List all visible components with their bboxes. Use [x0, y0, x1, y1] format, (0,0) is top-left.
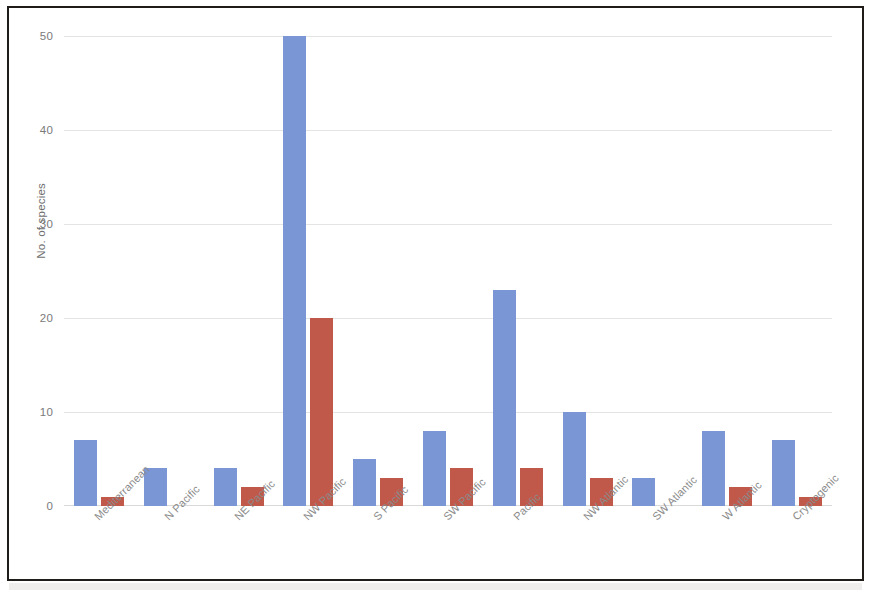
bar	[772, 440, 795, 506]
bar-group	[214, 36, 264, 506]
y-axis-tick-label: 50	[40, 30, 53, 42]
y-axis-tick-label: 20	[40, 312, 53, 324]
bar-group	[563, 36, 613, 506]
bar	[74, 440, 97, 506]
chart-figure-frame: No. of species 01020304050 Mediterranean…	[7, 6, 864, 581]
bar	[214, 468, 237, 506]
bars-layer	[64, 36, 832, 506]
bar-group	[283, 36, 333, 506]
bar	[310, 318, 333, 506]
bar-group	[144, 36, 194, 506]
bar-group	[353, 36, 403, 506]
y-axis-tick-label: 10	[40, 406, 53, 418]
bar-group	[74, 36, 124, 506]
bar	[353, 459, 376, 506]
figure-bottom-strip	[9, 583, 862, 590]
bar	[283, 36, 306, 506]
x-axis-tick-labels: MediterraneanN PacificNE PacificNW Pacif…	[64, 508, 832, 588]
bar-group	[702, 36, 752, 506]
bar	[563, 412, 586, 506]
bar-group	[493, 36, 543, 506]
bar-chart-canvas: No. of species 01020304050 Mediterranean…	[9, 8, 862, 579]
y-axis-tick-label: 30	[40, 218, 53, 230]
y-axis-tick-label: 40	[40, 124, 53, 136]
bar-group	[423, 36, 473, 506]
bar	[423, 431, 446, 506]
bar-group	[772, 36, 822, 506]
y-axis-tick-label: 0	[46, 500, 53, 512]
bar	[493, 290, 516, 506]
plot-area: 01020304050	[64, 36, 832, 506]
bar	[632, 478, 655, 506]
bar-group	[632, 36, 682, 506]
bar	[702, 431, 725, 506]
